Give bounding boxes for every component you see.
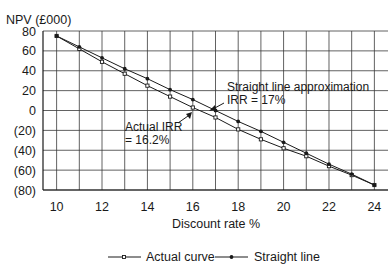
- x-axis-label: Discount rate %: [172, 217, 260, 231]
- npv-chart: 806040200(20)(40)(60)(80)101214161820222…: [0, 0, 389, 275]
- data-point-straight: [168, 88, 172, 92]
- data-point-straight: [259, 129, 263, 133]
- annotation-actual-irr: Actual IRR = 16.2%: [125, 112, 192, 147]
- legend-label-straight: Straight line: [254, 250, 320, 264]
- annotation-actual-2: = 16.2%: [125, 133, 170, 147]
- data-point-straight: [191, 98, 195, 102]
- data-point-straight: [372, 183, 376, 187]
- x-tick-label: 18: [231, 200, 245, 214]
- data-point-straight: [304, 151, 308, 155]
- data-point-actual: [214, 116, 217, 119]
- y-axis-label: NPV (£000): [6, 13, 71, 27]
- x-tick-label: 22: [322, 200, 336, 214]
- legend-item-straight-line: Straight line: [215, 250, 320, 264]
- data-point-actual: [146, 84, 149, 87]
- open-square-marker-icon: [123, 256, 126, 259]
- data-point-straight: [236, 120, 240, 124]
- x-tick-label: 16: [186, 200, 200, 214]
- y-tick-label: 0: [29, 104, 36, 118]
- y-tick-label: (60): [14, 164, 36, 178]
- x-tick-label: 10: [50, 200, 64, 214]
- data-point-straight: [123, 67, 127, 71]
- data-point-straight: [350, 172, 354, 176]
- legend: Actual curve Straight line: [108, 250, 320, 264]
- annotation-straight-line-2: IRR = 17%: [227, 93, 286, 107]
- annotation-straight-line-irr: Straight line approximation IRR = 17%: [209, 80, 369, 111]
- x-tick-label: 24: [367, 200, 381, 214]
- y-tick-label: 20: [22, 84, 36, 98]
- y-tick-label: 60: [22, 44, 36, 58]
- y-tick-label: (80): [14, 184, 36, 198]
- data-point-actual: [100, 60, 103, 63]
- data-point-actual: [259, 138, 262, 141]
- y-tick-label: (40): [14, 144, 36, 158]
- data-point-straight: [100, 56, 104, 60]
- data-point-actual: [123, 72, 126, 75]
- tick-labels: 806040200(20)(40)(60)(80)101214161820222…: [14, 25, 382, 215]
- legend-item-actual-curve: Actual curve: [108, 250, 215, 264]
- annotation-straight-line-1: Straight line approximation: [227, 80, 369, 94]
- data-point-actual: [282, 147, 285, 150]
- data-point-actual: [191, 106, 194, 109]
- x-tick-label: 20: [277, 200, 291, 214]
- filled-dot-marker-icon: [230, 255, 234, 259]
- data-point-actual: [169, 95, 172, 98]
- legend-label-actual: Actual curve: [146, 250, 215, 264]
- data-point-straight: [55, 34, 59, 38]
- x-tick-label: 14: [140, 200, 154, 214]
- y-tick-label: (20): [14, 124, 36, 138]
- arrow-head-icon: [186, 112, 192, 119]
- data-point-straight: [146, 77, 150, 81]
- y-tick-label: 40: [22, 64, 36, 78]
- data-point-actual: [237, 128, 240, 131]
- data-point-straight: [282, 140, 286, 144]
- x-tick-label: 12: [95, 200, 109, 214]
- annotation-actual-1: Actual IRR: [125, 120, 183, 134]
- data-point-straight: [327, 162, 331, 166]
- data-point-straight: [77, 45, 81, 49]
